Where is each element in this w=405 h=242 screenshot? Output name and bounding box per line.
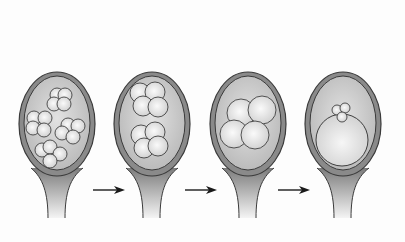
arrow-right-icon [185, 186, 217, 194]
cell [43, 154, 57, 168]
ovule-1 [19, 72, 95, 218]
cell [248, 96, 276, 124]
cell [148, 136, 168, 156]
arrow-right-icon [93, 186, 125, 194]
cell [57, 97, 71, 111]
cell [337, 112, 347, 122]
cell [37, 123, 51, 137]
diagram-canvas [0, 0, 405, 242]
cell [340, 103, 350, 113]
arrow-right-icon [278, 186, 310, 194]
ovule-2 [114, 72, 190, 218]
ovule-3 [210, 72, 286, 218]
ovule-development-diagram [0, 0, 405, 242]
ovule-4 [305, 72, 381, 218]
cell [241, 121, 269, 149]
cell [66, 130, 80, 144]
arrow-group [93, 186, 310, 194]
ovule-group [19, 72, 381, 218]
cell [148, 97, 168, 117]
